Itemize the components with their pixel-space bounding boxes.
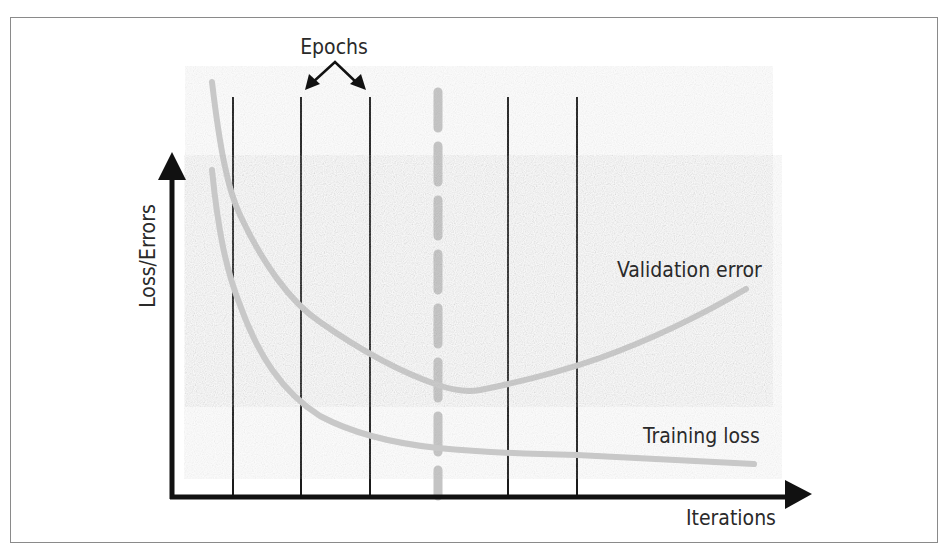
validation-error-label: Validation error bbox=[617, 258, 762, 282]
epochs-arrow-right-icon bbox=[350, 74, 366, 90]
x-axis-arrowhead-icon bbox=[785, 480, 812, 509]
validation-error-curve bbox=[212, 82, 746, 391]
epochs-label: Epochs bbox=[300, 35, 368, 59]
axes bbox=[158, 152, 812, 509]
training-loss-curve bbox=[212, 170, 754, 464]
overfitting-diagram: Epochs Loss/Errors Validation error Trai… bbox=[0, 0, 946, 558]
y-axis-label: Loss/Errors bbox=[136, 204, 160, 308]
y-axis-arrowhead-icon bbox=[158, 152, 186, 180]
x-axis-label: Iterations bbox=[686, 506, 776, 530]
epochs-arrow-shafts bbox=[312, 62, 357, 83]
training-loss-label: Training loss bbox=[642, 424, 760, 448]
epoch-lines bbox=[233, 97, 577, 499]
epochs-annotation-arrows bbox=[305, 62, 366, 90]
